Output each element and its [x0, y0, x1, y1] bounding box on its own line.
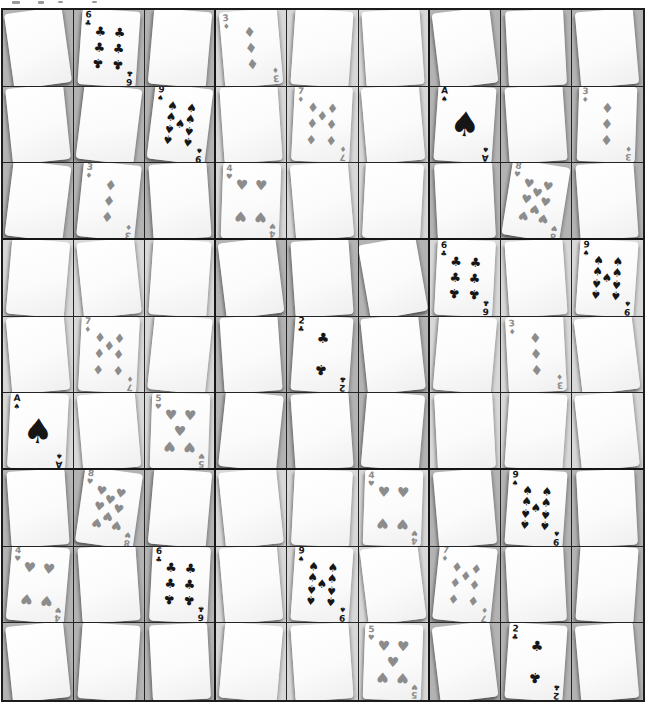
card-9-of-spades[interactable]: 9♠9♠♠♠♠♠♠♠♠♠♠	[504, 470, 567, 547]
card-face-down[interactable]	[362, 10, 425, 87]
card-face-down[interactable]	[360, 317, 426, 394]
pip-area: ♥♥♥♥	[15, 556, 62, 613]
card-3-of-diamonds[interactable]: 3♦3♦♦♦♦	[505, 317, 567, 394]
card-face-down[interactable]	[148, 470, 212, 547]
card-face-down[interactable]	[434, 393, 496, 470]
card-face-down[interactable]	[291, 240, 354, 317]
card-face-down[interactable]	[220, 317, 283, 394]
card-face-down[interactable]	[77, 393, 141, 470]
card-face-down[interactable]	[291, 393, 354, 470]
card-9-of-spades[interactable]: 9♠9♠♠♠♠♠♠♠♠♠♠	[291, 547, 354, 624]
cell-r7c5	[287, 470, 358, 547]
card-face-down[interactable]	[574, 317, 641, 394]
card-5-of-hearts[interactable]: 5♥5♥♥♥♥♥♥	[363, 623, 424, 700]
cell-r6c9	[572, 393, 643, 470]
card-face-down[interactable]	[219, 623, 283, 700]
hearts-pip-icon: ♥	[537, 211, 550, 225]
card-3-of-diamonds[interactable]: 3♦3♦♦♦♦	[577, 87, 638, 164]
card-7-of-diamonds[interactable]: 7♦7♦♦♦♦♦♦♦♦	[292, 87, 354, 164]
card-face-down[interactable]	[433, 317, 497, 394]
card-face-down[interactable]	[433, 470, 497, 547]
card-face-down[interactable]	[576, 547, 639, 624]
card-face-down[interactable]	[504, 87, 567, 164]
card-5-of-hearts[interactable]: 5♥5♥♥♥♥♥♥	[149, 393, 210, 469]
card-face-down[interactable]	[504, 240, 567, 317]
card-face-down[interactable]	[505, 547, 567, 624]
card-4-of-hearts[interactable]: 4♥4♥♥♥♥♥	[221, 163, 282, 239]
card-face-down[interactable]	[147, 317, 213, 394]
card-face-down[interactable]	[575, 623, 639, 700]
card-8-of-hearts[interactable]: 8♥8♥♥♥♥♥♥♥♥♥	[501, 163, 570, 240]
hearts-pip-icon: ♥	[91, 516, 103, 529]
card-face-down[interactable]	[576, 470, 638, 547]
card-face-down[interactable]	[5, 623, 71, 700]
card-face-down[interactable]	[6, 470, 69, 547]
card-face-down[interactable]	[78, 623, 141, 700]
card-face-down[interactable]	[5, 163, 72, 240]
card-4-of-hearts[interactable]: 4♥4♥♥♥♥♥	[6, 547, 70, 624]
card-face-down[interactable]	[6, 317, 70, 394]
card-9-of-spades[interactable]: 9♠9♠♠♠♠♠♠♠♠♠♠	[576, 240, 639, 317]
card-face-down[interactable]	[148, 240, 211, 317]
card-face-down[interactable]	[219, 393, 285, 470]
card-face-down[interactable]	[290, 163, 354, 240]
card-face-down[interactable]	[291, 623, 354, 700]
card-6-of-clubs[interactable]: 6♣6♣♣♣♣♣♣♣	[78, 10, 141, 87]
card-face-down[interactable]	[4, 10, 72, 87]
card-6-of-clubs[interactable]: 6♣6♣♣♣♣♣♣♣	[434, 240, 496, 317]
card-face-down[interactable]	[576, 163, 639, 240]
hearts-pip-icon: ♥	[377, 484, 390, 498]
hearts-pip-icon: ♥	[377, 638, 390, 652]
card-3-of-diamonds[interactable]: 3♦3♦♦♦♦	[76, 163, 142, 240]
card-face-down[interactable]	[149, 623, 211, 700]
card-face-down[interactable]	[575, 393, 641, 470]
card-face-down[interactable]	[431, 10, 498, 87]
cell-r9c6: 5♥5♥♥♥♥♥♥	[359, 623, 430, 700]
card-2-of-clubs[interactable]: 2♣2♣♣♣	[504, 623, 567, 700]
card-2-of-clubs[interactable]: 2♣2♣♣♣	[291, 317, 354, 394]
card-8-of-hearts[interactable]: 8♥8♥♥♥♥♥♥♥♥♥	[75, 470, 143, 547]
card-face-down[interactable]	[218, 240, 285, 317]
card-face-down[interactable]	[360, 547, 427, 624]
card-4-of-hearts[interactable]: 4♥4♥♥♥♥♥	[363, 470, 424, 547]
card-face-down[interactable]	[362, 163, 424, 240]
card-7-of-diamonds[interactable]: 7♦7♦♦♦♦♦♦♦♦	[78, 317, 140, 394]
card-face-down[interactable]	[6, 240, 70, 317]
diamonds-pip-icon: ♦	[92, 363, 104, 377]
card-face-down[interactable]	[78, 547, 141, 624]
cropped-print-mark	[92, 1, 97, 3]
card-face-down[interactable]	[361, 393, 425, 470]
card-face-down[interactable]	[220, 87, 283, 164]
card-face-down[interactable]	[219, 547, 283, 624]
cell-r7c6: 4♥4♥♥♥♥♥	[359, 470, 430, 547]
cell-r2c8	[501, 87, 572, 164]
card-face-down[interactable]	[505, 10, 567, 87]
card-A-of-spades[interactable]: A♠A♠♠	[433, 87, 496, 164]
card-face-down[interactable]	[359, 240, 429, 317]
cell-r6c2	[74, 393, 145, 470]
card-face-down[interactable]	[76, 240, 142, 317]
card-face-down[interactable]	[5, 87, 71, 164]
card-face-down[interactable]	[76, 87, 143, 164]
card-9-of-spades[interactable]: 9♠9♠♠♠♠♠♠♠♠♠♠	[146, 87, 213, 164]
card-face-down[interactable]	[148, 10, 212, 87]
hearts-pip-icon: ♥	[396, 671, 409, 685]
card-face-down[interactable]	[504, 393, 567, 470]
card-face-down[interactable]	[291, 10, 354, 87]
card-A-of-spades[interactable]: A♠A♠♠	[7, 393, 69, 470]
card-face-down[interactable]	[431, 623, 498, 700]
card-7-of-diamonds[interactable]: 7♦7♦♦♦♦♦♦♦♦	[432, 547, 498, 624]
diamonds-pip-icon: ♦	[529, 347, 542, 362]
card-face-down[interactable]	[148, 163, 211, 240]
card-face-down[interactable]	[575, 10, 639, 87]
card-face-down[interactable]	[292, 470, 354, 547]
card-face-down[interactable]	[434, 163, 496, 240]
cell-r3c7	[430, 163, 501, 240]
card-3-of-diamonds[interactable]: 3♦3♦♦♦♦	[219, 10, 283, 87]
card-6-of-clubs[interactable]: 6♣6♣♣♣♣♣♣♣	[149, 547, 211, 624]
card-face-down[interactable]	[361, 87, 425, 164]
card-face-down[interactable]	[219, 470, 285, 547]
diamonds-pip-icon: ♦	[528, 331, 541, 346]
cell-r5c5: 2♣2♣♣♣	[287, 317, 358, 394]
pip-area: ♠♠♠♠♠♠♠♠♠	[585, 249, 631, 306]
